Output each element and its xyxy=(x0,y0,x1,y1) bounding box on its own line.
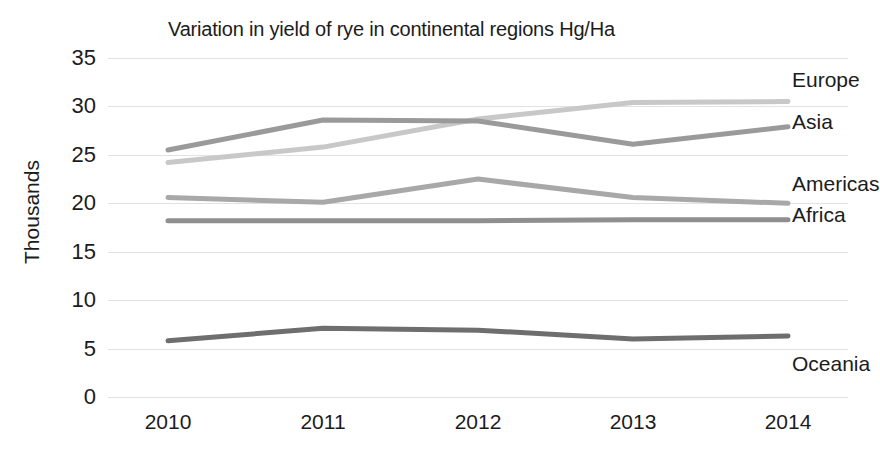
y-axis-tick-label: 35 xyxy=(40,47,96,69)
y-axis-tick-label: 10 xyxy=(40,289,96,311)
series-label-africa: Africa xyxy=(792,203,846,227)
gridline xyxy=(108,155,848,156)
gridline xyxy=(108,252,848,253)
y-axis-tick-label: 25 xyxy=(40,144,96,166)
gridline xyxy=(108,397,848,398)
series-label-asia: Asia xyxy=(792,110,833,134)
series-label-americas: Americas xyxy=(792,172,880,196)
series-label-europe: Europe xyxy=(792,68,860,92)
gridline xyxy=(108,106,848,107)
gridline xyxy=(108,300,848,301)
y-axis-tick-label: 30 xyxy=(40,95,96,117)
y-axis-tick-label: 0 xyxy=(40,386,96,408)
series-label-oceania: Oceania xyxy=(792,352,870,376)
y-axis-tick-label: 20 xyxy=(40,192,96,214)
gridline xyxy=(108,203,848,204)
y-axis-tick-label: 5 xyxy=(40,338,96,360)
gridline xyxy=(108,349,848,350)
gridline xyxy=(108,58,848,59)
y-axis-tick-label: 15 xyxy=(40,241,96,263)
chart-title: Variation in yield of rye in continental… xyxy=(168,18,615,41)
plot-area xyxy=(108,40,848,420)
